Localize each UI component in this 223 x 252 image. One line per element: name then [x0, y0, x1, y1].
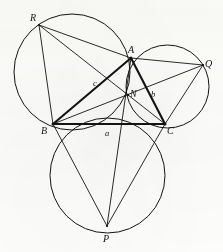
- cevian-CR: [39, 25, 165, 124]
- chord-AQ: [131, 58, 203, 65]
- circle-ACQ: [126, 45, 209, 128]
- point-label-N: N: [130, 89, 137, 99]
- point-label-A: A: [128, 45, 134, 55]
- side-label-b: b: [151, 90, 155, 99]
- point-label-R: R: [30, 13, 36, 23]
- vertex-dot-Q: [202, 64, 204, 66]
- vertex-dot-A: [130, 57, 133, 60]
- side-label-a: a: [105, 129, 109, 138]
- chord-RA: [39, 25, 131, 58]
- vertex-dot-N: [127, 94, 129, 96]
- side-label-c: c: [93, 79, 97, 88]
- vertex-dot-R: [38, 24, 40, 26]
- point-label-C: C: [167, 126, 174, 136]
- point-label-B: B: [41, 126, 47, 136]
- circle-ABR: [14, 14, 130, 130]
- vertex-dot-P: [106, 225, 108, 227]
- side-AB: [53, 58, 131, 124]
- point-label-Q: Q: [205, 59, 212, 69]
- cevian-AP: [107, 58, 131, 226]
- triangle-sides-group: [53, 58, 165, 124]
- point-label-P: P: [103, 234, 109, 244]
- chord-PC: [107, 124, 165, 226]
- chord-BP: [53, 124, 107, 226]
- chord-RB: [39, 25, 53, 124]
- vertex-dot-B: [52, 123, 55, 126]
- figure-canvas: [0, 0, 223, 252]
- geometry-figure: R A Q B C N P c b a: [0, 0, 223, 252]
- cevians-group: [39, 25, 203, 226]
